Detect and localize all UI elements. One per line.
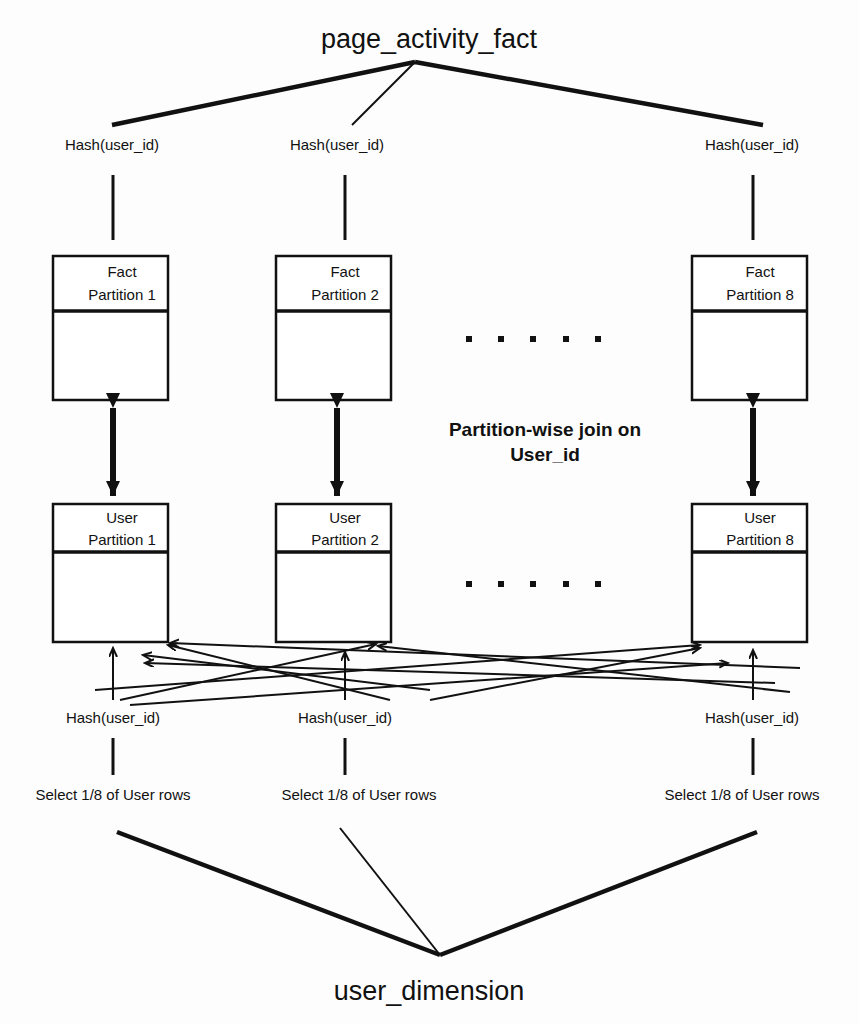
top-title: page_activity_fact [321, 24, 538, 54]
user-partition-8-title: User [744, 509, 776, 526]
fact-ellipsis-dot-5 [595, 336, 601, 342]
fact-ellipsis-dot-3 [530, 336, 536, 342]
join-label-line-1: Partition-wise join on [449, 419, 641, 440]
fact-partition-1[interactable]: Fact Partition 1 [53, 256, 168, 400]
top-fan-edges [112, 62, 763, 125]
user-ellipsis-dots [466, 581, 601, 587]
top-fan-edge-right [415, 62, 763, 125]
fact-ellipsis-dot-4 [563, 336, 569, 342]
user-ellipsis-dot-3 [530, 581, 536, 587]
join-arrows [113, 408, 753, 496]
fact-partition-8[interactable]: Fact Partition 8 [692, 256, 807, 400]
diagram-canvas: page_activity_fact Hash(user_id) Hash(us… [0, 0, 859, 1024]
bottom-hash-label-1: Hash(user_id) [66, 709, 160, 726]
top-vertical-connectors [113, 175, 753, 240]
user-partition-1-title: User [106, 509, 138, 526]
user-partition-2-title: User [329, 509, 361, 526]
partition-join-diagram: page_activity_fact Hash(user_id) Hash(us… [0, 0, 859, 1024]
dist-cross-to-p1 [168, 645, 390, 700]
bottom-title: user_dimension [334, 976, 525, 1006]
select-label-1: Select 1/8 of User rows [35, 786, 190, 803]
fact-ellipsis-dot-1 [466, 336, 472, 342]
select-label-3: Select 1/8 of User rows [664, 786, 819, 803]
dist-cross-to-p8-mid [130, 663, 728, 705]
fact-ellipsis-dot-2 [498, 336, 504, 342]
user-partition-1-subtitle: Partition 1 [88, 531, 156, 548]
top-fan-edge-left [112, 62, 415, 125]
user-ellipsis-dot-5 [595, 581, 601, 587]
user-partition-2-subtitle: Partition 2 [311, 531, 379, 548]
bottom-hash-label-3: Hash(user_id) [705, 709, 799, 726]
join-label-line-2: User_id [510, 444, 580, 465]
user-partition-1[interactable]: User Partition 1 [53, 504, 168, 642]
fact-partition-2-subtitle: Partition 2 [311, 286, 379, 303]
fact-partition-2-title: Fact [330, 263, 360, 280]
fact-partition-1-title: Fact [107, 263, 137, 280]
bottom-vertical-connectors [113, 738, 753, 775]
select-label-2: Select 1/8 of User rows [281, 786, 436, 803]
top-hash-label-3: Hash(user_id) [705, 136, 799, 153]
user-ellipsis-dot-2 [498, 581, 504, 587]
user-partition-2[interactable]: User Partition 2 [276, 504, 391, 642]
fact-partition-2[interactable]: Fact Partition 2 [276, 256, 391, 400]
bottom-fan-edge-right [440, 832, 757, 955]
top-hash-label-2: Hash(user_id) [290, 136, 384, 153]
fact-partition-8-subtitle: Partition 8 [726, 286, 794, 303]
fact-ellipsis-dots [466, 336, 601, 342]
bottom-hash-label-2: Hash(user_id) [298, 709, 392, 726]
fact-partition-8-title: Fact [745, 263, 775, 280]
user-ellipsis-dot-4 [563, 581, 569, 587]
top-hash-label-1: Hash(user_id) [65, 136, 159, 153]
fact-partition-1-subtitle: Partition 1 [88, 286, 156, 303]
user-ellipsis-dot-1 [466, 581, 472, 587]
distribution-crossing-edges [95, 643, 800, 705]
user-partition-8-subtitle: Partition 8 [726, 531, 794, 548]
user-partition-8[interactable]: User Partition 8 [692, 504, 807, 642]
bottom-fan-edges [117, 828, 757, 955]
